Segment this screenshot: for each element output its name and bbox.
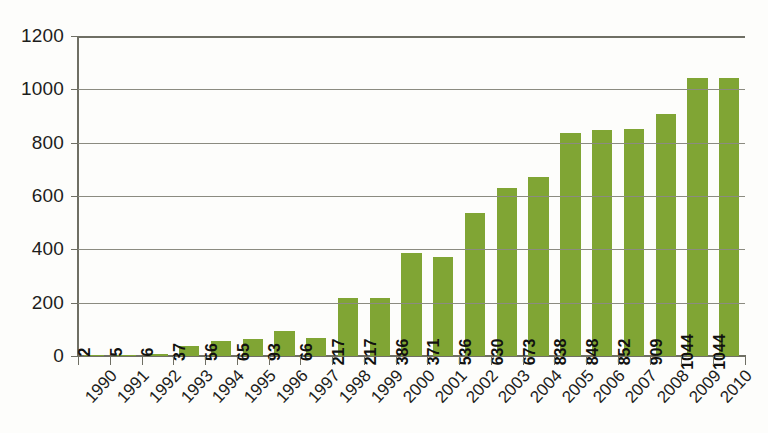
y-tickmark	[71, 356, 78, 357]
y-tickmark	[71, 143, 78, 144]
bar[interactable]: 66	[306, 338, 326, 356]
x-tickmark	[713, 356, 714, 365]
bar[interactable]: 386	[401, 253, 421, 356]
bar[interactable]: 93	[274, 331, 294, 356]
gridline	[78, 89, 745, 90]
y-tick-label: 1000	[21, 78, 64, 100]
x-axis-labels: 1990199119921993199419951996199719981999…	[78, 366, 745, 430]
x-tickmark	[681, 356, 682, 365]
y-tick-label: 800	[32, 132, 64, 154]
gridline	[78, 196, 745, 197]
x-tickmark	[142, 356, 143, 365]
x-tick-label: 1997	[304, 366, 344, 407]
x-tick-label: 2000	[399, 366, 439, 407]
x-tickmark	[523, 356, 524, 365]
y-tick-label: 200	[32, 292, 64, 314]
bar[interactable]: 217	[338, 298, 358, 356]
x-tick-label: 1992	[145, 366, 185, 407]
y-tick-label: 400	[32, 238, 64, 260]
x-tick-label: 2010	[717, 366, 757, 407]
x-tick-label: 2005	[558, 366, 598, 407]
bar[interactable]: 536	[465, 213, 485, 356]
x-tickmark	[554, 356, 555, 365]
x-tickmark	[205, 356, 206, 365]
x-tickmark	[364, 356, 365, 365]
y-tickmark	[71, 89, 78, 90]
y-tickmark	[71, 36, 78, 37]
x-tick-label: 2006	[590, 366, 630, 407]
x-tick-label: 2008	[653, 366, 693, 407]
x-tick-label: 2009	[685, 366, 725, 407]
bar[interactable]: 37	[179, 346, 199, 356]
bar[interactable]: 852	[624, 129, 644, 356]
x-tickmark	[332, 356, 333, 365]
y-tick-label: 0	[53, 345, 64, 367]
gridline	[78, 303, 745, 304]
x-tick-label: 1995	[240, 366, 280, 407]
bar-chart: 020040060080010001200 256375665936621721…	[0, 0, 768, 433]
x-tickmark	[618, 356, 619, 365]
x-tick-label: 2004	[526, 366, 566, 407]
bar[interactable]: 838	[560, 133, 580, 356]
x-tickmark	[396, 356, 397, 365]
bar[interactable]: 848	[592, 130, 612, 356]
bar[interactable]: 65	[243, 339, 263, 356]
bar[interactable]: 217	[370, 298, 390, 356]
x-tickmark	[491, 356, 492, 365]
x-tick-label: 1999	[367, 366, 407, 407]
x-tick-label: 1994	[208, 366, 248, 407]
x-tickmark	[237, 356, 238, 365]
x-axis-tickmarks	[78, 356, 745, 365]
x-tick-label: 1991	[113, 366, 153, 407]
x-tickmark	[78, 356, 79, 365]
x-tickmark	[745, 356, 746, 365]
bar[interactable]: 371	[433, 257, 453, 356]
x-tick-label: 2003	[494, 366, 534, 407]
bar[interactable]: 909	[656, 114, 676, 356]
x-tick-label: 1996	[272, 366, 312, 407]
x-tickmark	[300, 356, 301, 365]
y-tickmark	[71, 303, 78, 304]
x-tickmark	[269, 356, 270, 365]
x-tickmark	[173, 356, 174, 365]
bar[interactable]: 1044	[719, 78, 739, 356]
y-tickmark	[71, 249, 78, 250]
y-tickmark	[71, 196, 78, 197]
x-tickmark	[586, 356, 587, 365]
gridline	[78, 249, 745, 250]
x-tick-label: 2007	[621, 366, 661, 407]
x-tick-label: 2002	[463, 366, 503, 407]
y-tick-label: 600	[32, 185, 64, 207]
bar[interactable]: 56	[211, 341, 231, 356]
x-tickmark	[459, 356, 460, 365]
x-tick-label: 1998	[336, 366, 376, 407]
x-tick-label: 1990	[81, 366, 121, 407]
bar[interactable]: 1044	[687, 78, 707, 356]
y-axis: 020040060080010001200	[0, 0, 72, 433]
x-tickmark	[110, 356, 111, 365]
x-tickmark	[650, 356, 651, 365]
plot-area: 2563756659366217217386371536630673838848…	[78, 36, 745, 356]
gridline	[78, 36, 745, 38]
gridline	[78, 143, 745, 144]
x-tick-label: 1993	[177, 366, 217, 407]
y-tick-label: 1200	[21, 25, 64, 47]
bar[interactable]: 673	[528, 177, 548, 356]
x-tickmark	[427, 356, 428, 365]
x-tick-label: 2001	[431, 366, 471, 407]
bar[interactable]: 630	[497, 188, 517, 356]
